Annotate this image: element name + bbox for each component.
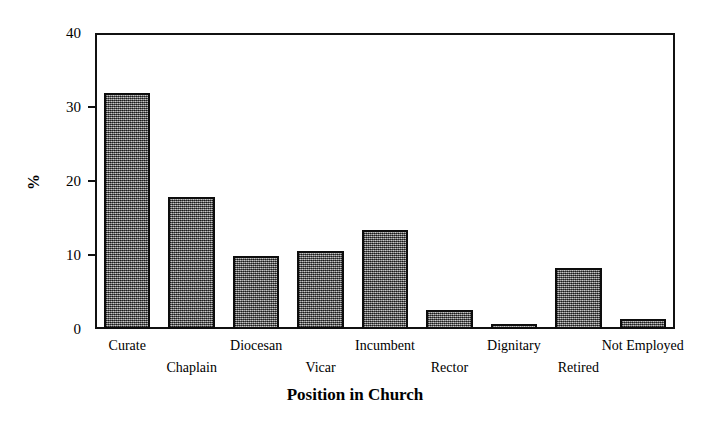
x-axis: Position in Church CurateChaplainDiocesa… (0, 0, 708, 429)
x-tick-label: Incumbent (355, 339, 415, 353)
x-tick-label: Retired (558, 361, 599, 375)
x-tick-label: Curate (109, 339, 146, 353)
x-tick-label: Dignitary (487, 339, 541, 353)
x-tick-label: Not Employed (602, 339, 684, 353)
x-tick-label: Rector (431, 361, 468, 375)
x-tick-label: Vicar (305, 361, 335, 375)
x-tick-label: Diocesan (230, 339, 282, 353)
x-tick-label: Chaplain (166, 361, 217, 375)
bar-chart-figure: % 010203040 Position in Church CurateCha… (0, 0, 708, 429)
x-axis-title: Position in Church (287, 385, 424, 405)
